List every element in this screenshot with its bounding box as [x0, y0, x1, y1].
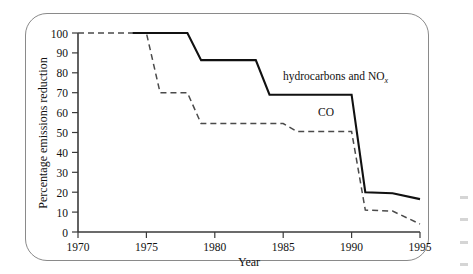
x-tick-label: 1970 [67, 241, 90, 253]
y-tick-label: 60 [57, 107, 69, 119]
x-tick-label: 1990 [340, 241, 363, 253]
y-tick-label: 20 [57, 187, 69, 199]
x-tick-label: 1985 [272, 241, 295, 253]
series-line-co [78, 33, 420, 224]
emissions-reduction-chart: 100 90 80 70 60 50 40 30 20 10 0 1970 19… [0, 0, 473, 274]
y-tick-label: 40 [57, 147, 69, 159]
y-tick-label: 100 [51, 28, 69, 40]
x-axis-tick-labels: 1970 1975 1980 1985 1990 1995 [67, 241, 432, 253]
y-tick-label: 50 [57, 127, 69, 139]
y-axis-tick-labels: 100 90 80 70 60 50 40 30 20 10 0 [51, 28, 69, 239]
y-tick-label: 70 [57, 87, 69, 99]
y-tick-label: 10 [57, 207, 69, 219]
y-tick-label: 30 [57, 167, 69, 179]
series-label-co: CO [318, 106, 334, 118]
y-axis-title: Percentage emissions reduction [36, 57, 50, 208]
y-tick-label: 90 [57, 47, 69, 59]
y-tick-label: 0 [62, 227, 68, 239]
series-label-hydrocarbons-nox: hydrocarbons and NOx [283, 70, 389, 85]
x-axis-title: Year [238, 255, 260, 269]
x-tick-label: 1980 [203, 241, 226, 253]
x-axis-ticks [78, 232, 420, 238]
series-line-hydrocarbons-nox [133, 33, 420, 199]
y-tick-label: 80 [57, 67, 69, 79]
x-tick-label: 1995 [409, 241, 432, 253]
x-tick-label: 1975 [135, 241, 158, 253]
y-axis-ticks [72, 33, 78, 232]
